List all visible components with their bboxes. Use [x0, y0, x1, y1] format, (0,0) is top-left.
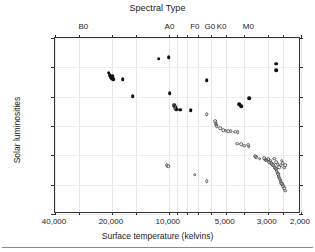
data-point — [167, 164, 171, 168]
data-point — [284, 189, 288, 193]
data-point — [229, 130, 233, 134]
axis-tick — [211, 35, 212, 38]
spectral-type-label: B0 — [78, 22, 88, 31]
axis-tick — [268, 35, 269, 38]
spectral-type-label: F0 — [190, 22, 199, 31]
data-point — [173, 106, 177, 110]
grid-line-vertical — [244, 38, 245, 212]
data-point — [131, 95, 135, 99]
data-point — [274, 160, 278, 164]
data-point — [239, 104, 243, 108]
hr-diagram-figure: Spectral Type 106104102110−210−410−6 Sol… — [0, 0, 315, 252]
axis-tick — [177, 212, 178, 215]
data-point — [178, 108, 182, 112]
axis-tick — [244, 212, 245, 215]
data-point — [280, 159, 284, 163]
data-point — [242, 144, 246, 148]
plot-area — [54, 37, 300, 213]
x-axis-title: Surface temperature (kelvins) — [0, 231, 315, 241]
grid-line-vertical — [198, 38, 199, 212]
spectral-type-label: A0 — [165, 22, 175, 31]
axis-tick — [226, 35, 227, 38]
axis-tick — [283, 212, 284, 215]
y-axis-tick-labels: 106104102110−210−410−6 — [0, 0, 52, 252]
axis-tick — [79, 35, 80, 38]
grid-line-vertical — [268, 38, 269, 212]
grid-line-horizontal — [55, 38, 299, 39]
axis-tick — [187, 35, 188, 38]
grid-line-horizontal — [55, 185, 299, 186]
data-point — [205, 179, 209, 183]
x-tick-label: 3,000 — [257, 217, 277, 226]
spectral-type-label: M0 — [243, 22, 254, 31]
data-point — [282, 166, 286, 170]
data-point — [236, 130, 240, 134]
axis-tick — [51, 185, 55, 186]
axis-tick — [51, 214, 55, 215]
axis-tick — [112, 35, 113, 38]
data-point — [205, 78, 209, 82]
axis-tick — [169, 35, 170, 38]
data-point — [275, 68, 279, 72]
grid-line-vertical — [301, 38, 302, 212]
data-point — [247, 145, 251, 149]
axis-tick — [299, 126, 303, 127]
data-point — [121, 77, 125, 81]
grid-line-vertical — [177, 38, 178, 212]
spectral-type-label: K0 — [217, 22, 227, 31]
axis-tick — [136, 212, 137, 215]
grid-line-vertical — [211, 38, 212, 212]
data-point — [189, 108, 193, 112]
axis-tick — [79, 212, 80, 215]
axis-tick — [51, 67, 55, 68]
grid-line-vertical — [226, 38, 227, 212]
grid-line-horizontal — [55, 126, 299, 127]
grid-line-vertical — [169, 38, 170, 212]
axis-tick — [299, 155, 303, 156]
x-tick-label: 2,000 — [290, 217, 310, 226]
data-point — [248, 96, 252, 100]
data-point — [205, 113, 209, 117]
bottom-divider — [2, 247, 313, 248]
x-tick-label: 40,000 — [42, 217, 66, 226]
data-point — [275, 62, 279, 66]
y-axis-title: Solar luminosities — [12, 75, 22, 185]
axis-tick — [211, 212, 212, 215]
axis-tick — [177, 35, 178, 38]
grid-line-vertical — [112, 38, 113, 212]
axis-tick — [187, 212, 188, 215]
axis-tick — [244, 35, 245, 38]
grid-line-vertical — [187, 38, 188, 212]
axis-tick — [51, 38, 55, 39]
axis-tick — [299, 214, 303, 215]
axis-tick — [112, 212, 113, 215]
axis-tick — [198, 35, 199, 38]
grid-line-horizontal — [55, 97, 299, 98]
data-point — [167, 56, 171, 60]
axis-tick — [51, 97, 55, 98]
axis-tick — [51, 155, 55, 156]
grid-line-vertical — [55, 38, 56, 212]
data-point — [193, 173, 197, 177]
axis-tick — [198, 212, 199, 215]
data-point — [111, 78, 115, 82]
axis-tick — [226, 212, 227, 215]
spectral-type-label: G0 — [204, 22, 215, 31]
axis-tick — [136, 35, 137, 38]
axis-tick — [268, 212, 269, 215]
axis-tick — [169, 212, 170, 215]
grid-line-vertical — [136, 38, 137, 212]
axis-tick — [299, 97, 303, 98]
axis-tick — [299, 38, 303, 39]
axis-tick — [299, 185, 303, 186]
x-tick-label: 10,000 — [156, 217, 180, 226]
axis-tick — [299, 67, 303, 68]
x-tick-label: 20,000 — [99, 217, 123, 226]
axis-tick — [51, 126, 55, 127]
x-tick-label: 5,000 — [215, 217, 235, 226]
data-point — [258, 157, 262, 161]
grid-line-vertical — [79, 38, 80, 212]
axis-tick — [55, 212, 56, 215]
data-point — [168, 92, 172, 96]
data-point — [157, 57, 161, 61]
